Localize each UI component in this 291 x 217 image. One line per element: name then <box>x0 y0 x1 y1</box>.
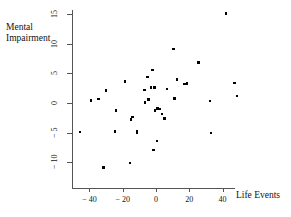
data-point <box>105 89 108 92</box>
data-point <box>151 69 154 72</box>
data-point <box>114 130 117 133</box>
x-tick-mark <box>223 188 224 192</box>
data-point <box>236 95 239 98</box>
x-axis-title: Life Events <box>236 190 280 200</box>
data-point <box>143 89 146 92</box>
data-point <box>156 140 159 143</box>
data-point <box>150 86 153 89</box>
y-tick-label: − 5 <box>51 123 65 143</box>
data-point <box>115 109 118 112</box>
data-point <box>163 117 166 120</box>
data-point <box>131 116 134 119</box>
data-point <box>233 82 236 85</box>
data-point <box>173 97 176 100</box>
x-tick-label: − 40 <box>76 196 102 204</box>
y-axis-title: Mental Impairment <box>6 22 50 44</box>
data-point <box>166 88 169 91</box>
x-tick-mark <box>89 188 90 192</box>
y-tick-mark <box>67 103 72 104</box>
data-point <box>147 98 150 101</box>
scatter-plot: Mental Impairment Life Events − 10− 5051… <box>0 0 291 217</box>
y-tick-label: 5 <box>51 63 65 83</box>
data-point <box>210 132 213 135</box>
y-tick-mark <box>67 162 72 163</box>
x-tick-mark <box>156 188 157 192</box>
data-point <box>79 131 82 134</box>
data-point <box>90 99 93 102</box>
y-tick-label: 0 <box>51 93 65 113</box>
data-point <box>197 61 200 64</box>
data-point <box>161 113 164 116</box>
x-tick-label: 0 <box>143 196 169 204</box>
y-tick-mark <box>67 44 72 45</box>
x-tick-label: − 20 <box>110 196 136 204</box>
y-tick-mark <box>67 133 72 134</box>
data-point <box>209 100 212 103</box>
data-point <box>152 149 155 152</box>
x-axis-line <box>72 188 235 189</box>
data-point <box>176 78 179 81</box>
data-point <box>153 86 156 89</box>
y-tick-label: − 10 <box>51 152 65 172</box>
y-axis-line <box>72 10 73 189</box>
x-tick-mark <box>189 188 190 192</box>
data-point <box>97 98 100 101</box>
data-point <box>102 166 105 169</box>
x-tick-label: 20 <box>176 196 202 204</box>
data-point <box>124 80 127 83</box>
data-point <box>186 82 189 85</box>
data-point <box>136 131 139 134</box>
data-point <box>130 118 133 121</box>
y-tick-label: 10 <box>51 34 65 54</box>
x-tick-mark <box>123 188 124 192</box>
data-point <box>154 109 157 112</box>
data-point <box>225 12 228 15</box>
data-point <box>146 76 149 79</box>
x-tick-label: 40 <box>210 196 236 204</box>
data-point <box>159 108 162 111</box>
data-point <box>144 101 147 104</box>
y-tick-mark <box>67 73 72 74</box>
y-tick-mark <box>67 14 72 15</box>
data-point <box>172 48 175 51</box>
y-tick-label: 15 <box>51 4 65 24</box>
data-point <box>129 162 132 165</box>
